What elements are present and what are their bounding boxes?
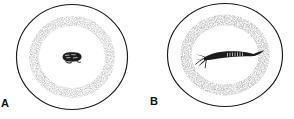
figure-panel-a: A	[0, 0, 147, 119]
panel-b-drawing	[147, 0, 294, 119]
figure-panel-b: B	[147, 0, 294, 119]
panel-label-a: A	[1, 98, 9, 109]
figure-root: A	[0, 0, 294, 119]
panel-label-b: B	[150, 96, 158, 107]
panel-a-drawing	[0, 0, 147, 119]
